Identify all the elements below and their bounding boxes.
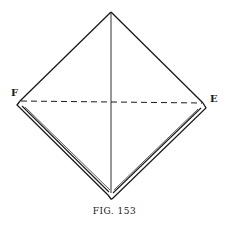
lower-left-layers — [17, 101, 110, 195]
vertex-label-f: F — [11, 88, 18, 98]
lower-right-inner-edge — [113, 108, 201, 193]
bottom-vertex — [108, 195, 112, 199]
lower-right-inner-edge-2 — [114, 109, 198, 190]
figure-canvas: F E FIG. 153 — [0, 0, 229, 231]
fold-line-dashed — [21, 101, 202, 103]
lower-right-layers — [112, 103, 206, 199]
lower-left-inner-edge-2 — [25, 107, 110, 190]
upper-left-edge — [20, 12, 111, 101]
upper-right-edge — [111, 12, 203, 103]
origami-diagram — [0, 0, 229, 231]
lower-left-inner-edge — [22, 106, 109, 192]
vertex-label-e: E — [210, 94, 218, 104]
figure-caption: FIG. 153 — [0, 206, 229, 216]
upper-edges — [20, 12, 203, 103]
